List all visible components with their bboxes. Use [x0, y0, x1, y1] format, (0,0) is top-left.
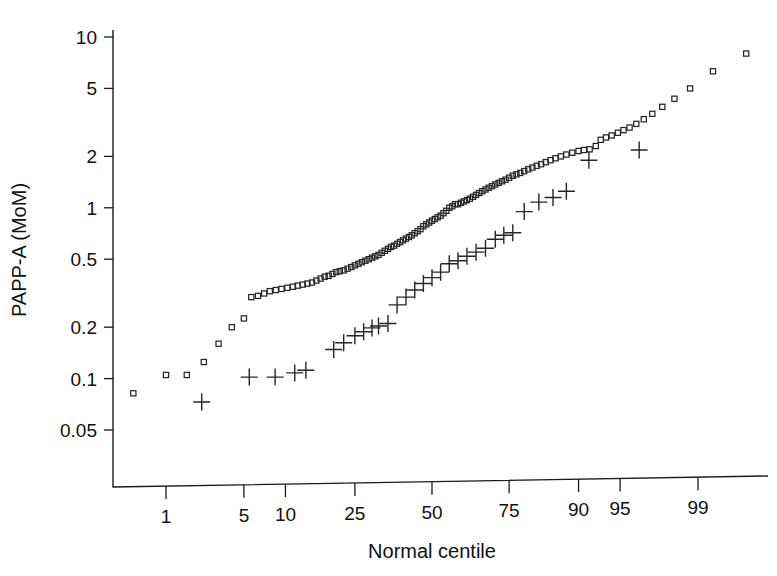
data-point-plus — [355, 323, 372, 340]
x-tick-label: 90 — [568, 499, 589, 520]
data-point-plus — [346, 327, 363, 344]
y-tick-label: 5 — [86, 78, 97, 99]
y-tick-label: 0.2 — [71, 317, 97, 338]
data-point-square — [564, 152, 569, 157]
data-point-square — [493, 182, 498, 187]
scatter-plot-canvas: 0.050.10.20.512510 1510255075909599 Norm… — [0, 0, 777, 576]
x-tick-label: 5 — [239, 505, 250, 526]
data-point-square — [641, 117, 646, 122]
series-down-syndrome-markers — [193, 141, 647, 410]
x-tick-label: 95 — [610, 498, 631, 519]
data-point-square — [581, 147, 586, 152]
data-point-square — [634, 121, 639, 126]
data-point-plus — [379, 315, 396, 332]
data-point-square — [216, 341, 221, 346]
data-point-plus — [487, 231, 504, 248]
data-point-plus — [286, 364, 303, 381]
data-point-plus — [441, 255, 458, 272]
data-point-square — [570, 150, 575, 155]
data-point-square — [184, 372, 189, 377]
data-point-square — [744, 51, 749, 56]
data-point-square — [710, 69, 715, 74]
y-tick-label: 1 — [86, 198, 97, 219]
y-axis-ticks: 0.050.10.20.512510 — [60, 27, 113, 441]
data-point-plus — [335, 334, 352, 351]
x-tick-label: 25 — [344, 503, 365, 524]
data-point-square — [489, 183, 494, 188]
data-point-plus — [477, 240, 494, 257]
data-point-square — [499, 179, 504, 184]
data-point-plus — [450, 252, 467, 269]
data-point-square — [615, 130, 620, 135]
data-point-plus — [241, 369, 258, 386]
data-point-square — [593, 143, 598, 148]
data-point-square — [576, 148, 581, 153]
x-tick-label: 99 — [687, 497, 708, 518]
data-point-plus — [297, 362, 314, 379]
x-tick-label: 1 — [161, 506, 172, 527]
y-tick-label: 0.1 — [71, 369, 97, 390]
y-tick-label: 2 — [86, 146, 97, 167]
data-point-square — [558, 154, 563, 159]
data-point-square — [598, 137, 603, 142]
axis-frame — [113, 30, 768, 487]
data-point-square — [366, 257, 371, 262]
data-point-square — [496, 180, 501, 185]
data-point-square — [273, 287, 278, 292]
data-point-square — [510, 173, 515, 178]
data-point-square — [255, 293, 260, 298]
data-point-square — [201, 359, 206, 364]
data-point-square — [229, 325, 234, 330]
x-axis-title: Normal centile — [368, 540, 496, 562]
y-tick-label: 10 — [76, 27, 97, 48]
data-point-plus — [580, 152, 597, 169]
y-axis-title: PAPP-A (MoM) — [8, 183, 30, 317]
series-unaffected-markers — [131, 51, 749, 396]
data-point-square — [687, 86, 692, 91]
data-point-plus — [516, 203, 533, 220]
data-point-square — [603, 135, 608, 140]
axes-group — [113, 30, 768, 487]
data-point-plus — [267, 369, 284, 386]
data-point-square — [672, 96, 677, 101]
y-tick-label: 0.5 — [71, 249, 97, 270]
data-point-plus — [397, 289, 414, 306]
data-point-plus — [631, 141, 648, 158]
data-point-plus — [495, 227, 512, 244]
y-tick-label: 0.05 — [60, 420, 97, 441]
x-tick-label: 10 — [275, 504, 296, 525]
data-point-plus — [458, 248, 475, 265]
data-point-square — [163, 372, 168, 377]
data-point-square — [660, 104, 665, 109]
data-point-square — [241, 316, 246, 321]
data-point-square — [587, 147, 592, 152]
data-point-square — [359, 260, 364, 265]
data-point-square — [369, 255, 374, 260]
data-point-square — [285, 285, 290, 290]
data-point-square — [131, 391, 136, 396]
data-point-plus — [468, 244, 485, 261]
data-point-square — [349, 264, 354, 269]
data-point-square — [352, 263, 357, 268]
data-point-square — [609, 133, 614, 138]
data-point-square — [356, 261, 361, 266]
data-point-square — [267, 289, 272, 294]
data-point-plus — [325, 341, 342, 358]
data-point-square — [279, 286, 284, 291]
data-point-plus — [389, 296, 406, 313]
data-point-square — [650, 111, 655, 116]
data-point-square — [621, 128, 626, 133]
data-point-square — [363, 258, 368, 263]
data-point-plus — [504, 224, 521, 241]
data-point-square — [262, 291, 267, 296]
data-point-plus — [193, 393, 210, 410]
chart-figure: 0.050.10.20.512510 1510255075909599 Norm… — [0, 0, 777, 576]
x-tick-label: 75 — [499, 500, 520, 521]
data-point-square — [249, 294, 254, 299]
x-tick-label: 50 — [421, 502, 442, 523]
data-point-plus — [530, 194, 547, 211]
data-point-square — [627, 125, 632, 130]
